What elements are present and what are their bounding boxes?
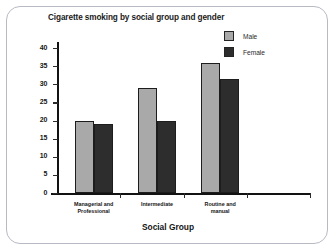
x-tick-1 <box>120 193 121 198</box>
y-tick-label-40: 40 <box>40 44 48 51</box>
y-tick-0: 0 <box>53 193 58 194</box>
x-axis-title: Social Group <box>0 222 336 232</box>
y-tick-label-15: 15 <box>40 134 48 141</box>
y-tick-25: 25 <box>53 102 58 103</box>
y-tick-40: 40 <box>53 48 58 49</box>
y-tick-label-0: 0 <box>44 189 48 196</box>
y-tick-15: 15 <box>53 139 58 140</box>
category-label-line: Professional <box>49 208 139 215</box>
x-tick-4 <box>310 193 311 198</box>
y-tick-30: 30 <box>53 84 58 85</box>
category-label-line: Routine and <box>175 201 265 208</box>
bar-male-2 <box>201 63 220 194</box>
bar-female-1 <box>157 121 176 194</box>
y-axis-line <box>57 42 59 193</box>
y-tick-label-20: 20 <box>40 116 48 123</box>
y-tick-20: 20 <box>53 121 58 122</box>
x-tick-3 <box>247 193 248 198</box>
legend-item-male: Male <box>224 29 265 43</box>
bar-female-0 <box>94 124 113 193</box>
legend-label-male: Male <box>243 33 257 40</box>
category-label-line: manual <box>175 208 265 215</box>
bar-male-1 <box>138 88 157 193</box>
y-tick-label-5: 5 <box>44 170 48 177</box>
bar-female-2 <box>220 79 239 193</box>
category-label-2: Routine andmanual <box>175 201 265 215</box>
chart-title: Cigarette smoking by social group and ge… <box>48 13 224 22</box>
bar-male-0 <box>75 121 94 194</box>
y-tick-label-30: 30 <box>40 80 48 87</box>
y-tick-35: 35 <box>53 66 58 67</box>
legend-swatch-male <box>224 31 234 41</box>
chart-figure: Cigarette smoking by social group and ge… <box>0 0 336 252</box>
x-axis-line <box>51 193 310 195</box>
plot-area: 0510152025303540 Managerial andProfessio… <box>57 48 310 193</box>
x-tick-2 <box>184 193 185 198</box>
y-tick-5: 5 <box>53 175 58 176</box>
y-tick-10: 10 <box>53 157 58 158</box>
y-tick-label-10: 10 <box>40 152 48 159</box>
y-tick-label-25: 25 <box>40 98 48 105</box>
y-tick-label-35: 35 <box>40 62 48 69</box>
